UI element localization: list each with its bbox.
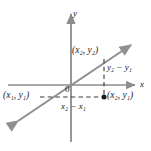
point-1-label: (x₁, y₁) <box>3 91 29 101</box>
corner-point-label: (x₂, y₁) <box>107 91 133 101</box>
origin-label: 0 <box>65 85 70 94</box>
slope-diagram-figure: y x 0 (x₁, y₁) (x₂, y₂) (x₂, y₁) x₂ − x₁… <box>0 0 151 151</box>
rise-label: y₂ − y₁ <box>107 63 132 72</box>
diagram-canvas <box>0 0 151 151</box>
corner-point-marker <box>102 95 107 100</box>
run-label: x₂ − x₁ <box>61 102 86 111</box>
y-axis-label: y <box>73 9 77 18</box>
x-axis-label: x <box>140 80 144 89</box>
point-2-label: (x₂, y₂) <box>72 46 98 56</box>
